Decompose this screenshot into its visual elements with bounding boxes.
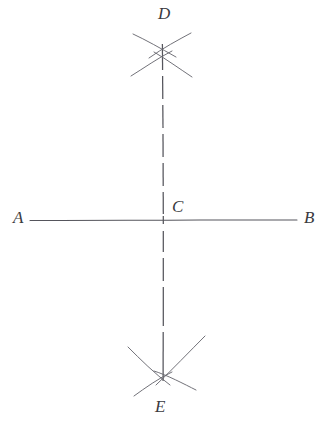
geometry-figure [0,0,336,430]
line-dc [162,44,163,224]
lower-arc-group [128,336,205,396]
point-label-b: B [304,209,315,226]
point-label-e: E [155,398,166,415]
upper-arc-group [131,33,192,77]
point-label-a: A [13,209,24,226]
point-label-d: D [158,5,170,22]
diagram-canvas: A B C D E [0,0,336,430]
upper-arc-lower-left [131,51,172,76]
point-label-c: C [172,198,184,215]
